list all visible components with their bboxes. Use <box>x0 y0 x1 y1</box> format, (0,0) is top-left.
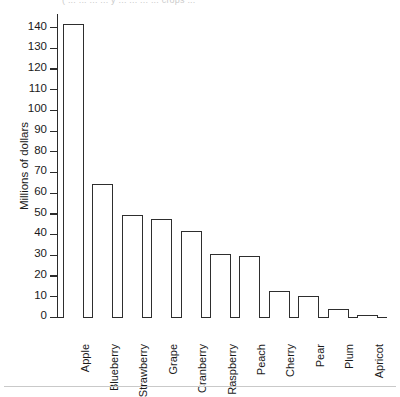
y-axis-line <box>57 14 58 318</box>
y-axis-tick-label: 70 <box>34 164 47 176</box>
bar-cherry <box>269 291 290 318</box>
y-axis-tick-label: 80 <box>34 144 47 156</box>
y-axis-tick-label: 110 <box>29 82 47 94</box>
y-axis-tick: 110 <box>50 89 57 90</box>
y-axis-tick-label: 90 <box>34 123 47 135</box>
y-axis-tick: 140 <box>50 27 57 28</box>
y-axis-tick: 10 <box>50 296 57 297</box>
y-axis-tick: 40 <box>50 234 57 235</box>
y-axis-tick-label: 140 <box>28 20 47 32</box>
y-axis-tick: 130 <box>50 48 57 49</box>
y-axis-tick: 30 <box>50 255 57 256</box>
bar-peach <box>239 256 260 318</box>
y-axis-tick-label: 60 <box>34 185 47 197</box>
bar-raspberry <box>210 254 231 318</box>
x-axis-label-plum: Plum <box>343 344 355 369</box>
y-axis-tick-label: 0 <box>41 309 47 321</box>
x-axis-label-pear: Pear <box>314 344 326 367</box>
y-axis-tick: 80 <box>50 151 57 152</box>
bar-cranberry <box>181 231 202 318</box>
cut-off-caption-text: ( ... ... ... ... y ... ... ... ... crop… <box>62 0 392 7</box>
y-axis-tick: 70 <box>50 172 57 173</box>
y-axis-tick: 60 <box>50 193 57 194</box>
x-axis-label-grape: Grape <box>167 344 179 375</box>
y-axis-tick: 100 <box>50 110 57 111</box>
bar-strawberry <box>122 215 143 318</box>
y-axis-tick: 120 <box>50 68 57 69</box>
y-axis-tick: 90 <box>50 131 57 132</box>
bar-blueberry <box>92 184 113 318</box>
bar-grape <box>151 219 172 318</box>
x-axis-label-cherry: Cherry <box>284 344 296 377</box>
bar-apricot <box>357 315 378 318</box>
y-axis-tick-label: 40 <box>34 226 47 238</box>
x-axis-label-strawberry: Strawberry <box>137 344 149 397</box>
page-divider-rule <box>4 386 396 387</box>
y-axis-tick: 20 <box>50 275 57 276</box>
plot-area: 0102030405060708090100110120130140 Apple… <box>57 18 394 318</box>
y-axis-tick-label: 100 <box>28 102 47 114</box>
x-axis-label-apricot: Apricot <box>373 344 385 378</box>
y-axis-tick-label: 10 <box>34 289 47 301</box>
x-axis-label-blueberry: Blueberry <box>108 344 120 391</box>
y-axis-tick-label: 20 <box>34 268 47 280</box>
bar-plum <box>328 309 349 318</box>
x-axis-label-peach: Peach <box>255 344 267 375</box>
y-axis-tick-label: 120 <box>28 61 47 73</box>
x-axis-label-apple: Apple <box>79 344 91 372</box>
y-axis-tick-label: 50 <box>34 206 47 218</box>
y-axis-tick: 0 <box>50 317 57 318</box>
y-axis-tick-label: 30 <box>34 247 47 259</box>
y-axis-tick: 50 <box>50 213 57 214</box>
cut-off-caption-label: ( ... ... ... ... y ... ... ... ... crop… <box>62 0 392 6</box>
bar-pear <box>298 296 319 318</box>
y-axis-tick-label: 130 <box>28 40 47 52</box>
bar-apple <box>63 24 84 318</box>
x-axis-label-raspberry: Raspberry <box>226 344 238 395</box>
